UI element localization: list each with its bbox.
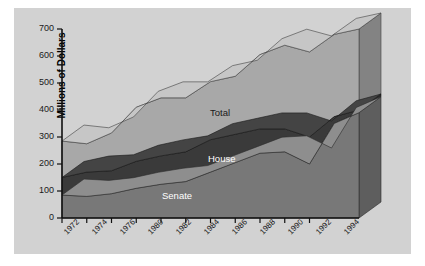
series-label-house: House [208,153,235,164]
series-label-total: Total [210,107,230,118]
series-label-senate: Senate [162,190,192,201]
chart-figure: Millions of Dollars 700 600 500 400 300 … [0,0,425,266]
chart-panel: Millions of Dollars 700 600 500 400 300 … [14,8,411,254]
senate-depth-wall [359,97,381,218]
plot-area [14,8,411,254]
